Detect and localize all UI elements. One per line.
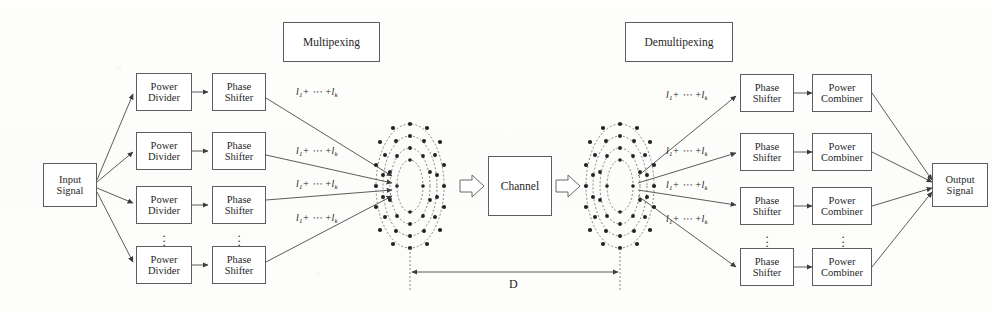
rx-phase-shifter-box-4: Phase Shifter (740, 248, 794, 286)
block-arrow-from-channel (556, 175, 580, 197)
phase-shifter-label-line2: Shifter (225, 265, 254, 276)
rx-mode-label-4: l1+ ⋯ +lk (666, 213, 708, 224)
phase-shifter-label-line1: Phase (227, 140, 252, 151)
phase-shifter-label-line2: Shifter (753, 267, 782, 278)
power-combiner-box-1: Power Combiner (812, 74, 872, 112)
power-combiner-box-4: Power Combiner (812, 248, 872, 286)
distance-label: D (509, 277, 518, 292)
rx-mode-label-3: l1+ ⋯ +lk (666, 179, 708, 190)
power-combiner-label-line1: Power (829, 256, 856, 267)
output-signal-label-line1: Output (945, 174, 974, 185)
power-combiner-label-line2: Combiner (821, 206, 863, 217)
power-combiner-label-line2: Combiner (821, 267, 863, 278)
demultiplexing-title-label: Demultipexing (645, 36, 714, 48)
power-divider-box-3: Power Divider (136, 186, 192, 224)
phase-shifter-label-line2: Shifter (753, 152, 782, 163)
power-combiner-box-2: Power Combiner (812, 133, 872, 171)
multiplexing-title-label: Multipexing (303, 36, 360, 48)
tx-mode-label-1: l1+ ⋯ +lk (296, 86, 338, 97)
power-combiner-label-line2: Combiner (821, 152, 863, 163)
edge-shifter-to-tx-array-3 (266, 190, 392, 200)
power-combiner-label-line2: Combiner (821, 93, 863, 104)
power-combiner-box-3: Power Combiner (812, 187, 872, 225)
tx-mode-label-2: l1+ ⋯ +lk (296, 145, 338, 156)
power-divider-box-4: Power Divider (136, 246, 192, 284)
tx-antenna-array (374, 122, 446, 290)
rx-mode-label-2: l1+ ⋯ +lk (666, 145, 708, 156)
power-divider-label-line1: Power (151, 254, 178, 265)
phase-shifter-label-line1: Phase (755, 82, 780, 93)
output-signal-label-line2: Signal (947, 185, 974, 196)
power-combiner-label-line1: Power (829, 141, 856, 152)
power-divider-label-line2: Divider (148, 205, 180, 216)
input-signal-box: Input Signal (43, 163, 97, 207)
power-divider-label-line1: Power (151, 194, 178, 205)
rx-phase-shifter-ellipsis: ... (762, 232, 772, 246)
phase-shifter-label-line2: Shifter (225, 92, 254, 103)
power-divider-label-line2: Divider (148, 151, 180, 162)
phase-shifter-label-line1: Phase (227, 81, 252, 92)
power-divider-box-2: Power Divider (136, 132, 192, 170)
rx-antenna-array (584, 122, 656, 290)
tx-phase-shifter-box-1: Phase Shifter (212, 73, 266, 111)
output-signal-box: Output Signal (932, 163, 988, 207)
phase-shifter-label-line1: Phase (755, 195, 780, 206)
channel-box: Channel (488, 156, 552, 216)
demultiplexing-title-box: Demultipexing (625, 22, 733, 62)
phase-shifter-label-line1: Phase (755, 141, 780, 152)
multiplexing-title-box: Multipexing (283, 22, 380, 62)
phase-shifter-label-line1: Phase (227, 194, 252, 205)
phase-shifter-label-line2: Shifter (225, 151, 254, 162)
rx-antenna-elements (584, 122, 656, 250)
phase-shifter-label-line2: Shifter (753, 206, 782, 217)
rx-phase-shifter-box-3: Phase Shifter (740, 187, 794, 225)
block-arrow-to-channel (460, 175, 484, 197)
power-combiner-label-line1: Power (829, 195, 856, 206)
phase-shifter-label-line1: Phase (755, 256, 780, 267)
phase-shifter-label-line2: Shifter (225, 205, 254, 216)
rx-phase-shifter-box-2: Phase Shifter (740, 133, 794, 171)
tx-mode-label-3: l1+ ⋯ +lk (296, 178, 338, 189)
tx-phase-shifter-box-4: Phase Shifter (212, 246, 266, 284)
power-divider-label-line2: Divider (148, 92, 180, 103)
input-signal-label-line2: Signal (57, 185, 84, 196)
power-divider-label-line1: Power (151, 81, 178, 92)
phase-shifter-label-line1: Phase (227, 254, 252, 265)
power-divider-ellipsis: ... (159, 231, 169, 245)
rx-phase-shifter-box-1: Phase Shifter (740, 74, 794, 112)
tx-phase-shifter-ellipsis: ... (234, 231, 244, 245)
tx-mode-label-4: l1+ ⋯ +lk (296, 212, 338, 223)
tx-phase-shifter-box-3: Phase Shifter (212, 186, 266, 224)
channel-label: Channel (501, 180, 539, 192)
edge-input-to-divider-4 (97, 192, 133, 262)
edge-input-to-divider-3 (97, 188, 133, 203)
tx-antenna-elements (374, 122, 446, 250)
input-signal-label-line1: Input (59, 174, 81, 185)
power-combiner-ellipsis: ... (838, 232, 848, 246)
edge-shifter-to-tx-array-1 (266, 98, 392, 176)
phase-shifter-label-line2: Shifter (753, 93, 782, 104)
power-combiner-label-line1: Power (829, 82, 856, 93)
diagram-canvas: Multipexing Demultipexing Input Signal O… (0, 0, 992, 312)
edge-shifter-to-tx-array-4 (266, 196, 392, 262)
power-divider-label-line2: Divider (148, 265, 180, 276)
power-divider-label-line1: Power (151, 140, 178, 151)
rx-mode-label-1: l1+ ⋯ +lk (666, 89, 708, 100)
power-divider-box-1: Power Divider (136, 73, 192, 111)
tx-phase-shifter-box-2: Phase Shifter (212, 132, 266, 170)
